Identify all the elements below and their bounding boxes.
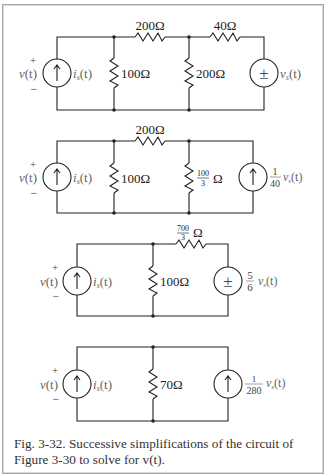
node-dot	[151, 419, 155, 423]
resistor-200-shunt	[185, 58, 193, 88]
resistor-70-shunt	[149, 369, 157, 399]
resistor-label: 40Ω	[214, 18, 237, 33]
resistor-100-shunt	[110, 163, 118, 193]
fraction-numerator: 700	[177, 224, 189, 233]
minus-sign: −	[31, 186, 38, 200]
resistor-100-shunt	[110, 58, 118, 88]
fraction-denominator: 6	[247, 281, 253, 293]
fraction-numerator: 1	[252, 374, 257, 384]
resistor-label: 70Ω	[160, 377, 183, 392]
fraction-numerator: 1	[273, 166, 278, 177]
node-dot	[151, 314, 155, 318]
bottom-wire	[57, 87, 264, 110]
node-dot	[187, 35, 191, 39]
fraction-denominator: 3	[181, 233, 185, 242]
resistor-200-series	[135, 137, 165, 145]
top-wire	[57, 141, 253, 163]
fraction-denominator: 40	[270, 178, 280, 189]
plus-sign: +	[52, 364, 58, 376]
resistor-label: 200Ω	[135, 18, 164, 33]
resistor-label: 200Ω	[196, 66, 225, 81]
resistor-label: 100Ω	[121, 171, 150, 186]
ohm-unit: Ω	[213, 171, 223, 186]
resistor-label: 200Ω	[135, 122, 164, 137]
resistor-100-3-shunt	[185, 163, 193, 193]
node-dot	[112, 35, 116, 39]
node-dot	[151, 345, 155, 349]
voltage-label-v: v(t)	[19, 66, 37, 81]
figure-caption: Fig. 3-32. Successive simplifications of…	[14, 436, 318, 468]
circuit-3: ± 700 3 Ω 100Ω + − v(t) is(t) 5 6 vs(t)	[40, 224, 277, 318]
plus-minus-sign: ±	[223, 272, 232, 291]
node-dot	[187, 108, 191, 112]
plus-sign: +	[52, 261, 58, 273]
voltage-label-v: v(t)	[40, 274, 58, 289]
node-dot	[187, 139, 191, 143]
resistor-40-series	[210, 33, 240, 41]
node-dot	[187, 211, 191, 215]
resistor-label: 100Ω	[160, 274, 189, 289]
caption-line-2: Figure 3-30 to solve for v(t).	[14, 452, 318, 468]
fraction-numerator: 5	[247, 269, 253, 281]
bottom-wire	[57, 191, 253, 213]
plus-minus-sign: ±	[259, 64, 268, 83]
source-label-vs: vs(t)	[283, 170, 302, 185]
caption-line-1: Fig. 3-32. Successive simplifications of…	[14, 436, 318, 452]
current-label-is: is(t)	[93, 377, 112, 393]
plus-sign: +	[30, 158, 36, 170]
minus-sign: −	[53, 289, 60, 303]
circuit-4: 70Ω + − v(t) is(t) 1 280 vs(t)	[40, 345, 285, 423]
fraction-numerator: 100	[197, 169, 209, 178]
node-dot	[112, 211, 116, 215]
node-dot	[151, 242, 155, 246]
current-label-is: is(t)	[93, 274, 112, 290]
resistor-label: 100Ω	[121, 66, 150, 81]
source-label-vs: vs(t)	[258, 274, 277, 289]
current-label-is: is(t)	[73, 66, 92, 82]
source-label-vs: vs(t)	[266, 376, 285, 391]
minus-sign: −	[53, 392, 60, 406]
node-dot	[112, 108, 116, 112]
current-label-is: is(t)	[73, 170, 92, 186]
resistor-200-series	[135, 33, 165, 41]
fraction-denominator: 3	[201, 179, 205, 188]
minus-sign: −	[31, 82, 38, 96]
source-label-vs: vs(t)	[280, 66, 301, 82]
voltage-label-v: v(t)	[40, 377, 58, 392]
fraction-denominator: 280	[247, 385, 262, 396]
ohm-unit: Ω	[193, 225, 203, 240]
resistor-100-shunt	[149, 266, 157, 296]
node-dot	[112, 139, 116, 143]
voltage-label-v: v(t)	[19, 170, 37, 185]
plus-sign: +	[30, 54, 36, 66]
circuit-2: 200Ω 100Ω 100 3 Ω + − v(t) is(t) 1 40 vs…	[19, 122, 302, 215]
circuit-1: ± 200Ω 40Ω 100Ω 200Ω + − v(t) is(t) vs(t…	[19, 18, 301, 112]
top-wire	[57, 37, 264, 59]
